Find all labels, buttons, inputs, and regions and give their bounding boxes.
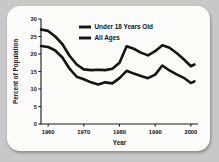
y-tick-label: 30 bbox=[31, 16, 37, 22]
y-tick-label: 25 bbox=[31, 34, 37, 40]
y-tick-label: 20 bbox=[31, 51, 37, 57]
chart-plot-area: 051015202530 19601970198019902000 Under … bbox=[7, 6, 210, 151]
x-tick-label: 1960 bbox=[42, 129, 55, 135]
legend-label: Under 18 Years Old bbox=[95, 23, 154, 30]
x-tick-label: 1980 bbox=[113, 129, 126, 135]
y-axis-title: Percent of Population bbox=[12, 39, 20, 104]
y-tick-label: 15 bbox=[31, 69, 37, 75]
x-tick-label: 2000 bbox=[184, 129, 197, 135]
y-tick-label: 10 bbox=[31, 86, 37, 92]
x-axis-title: Year bbox=[113, 139, 127, 146]
y-tick-label: 0 bbox=[34, 121, 37, 127]
legend-label: All Ages bbox=[95, 34, 121, 42]
chart-legend: Under 18 Years OldAll Ages bbox=[79, 23, 153, 42]
y-tick-label: 5 bbox=[34, 104, 37, 110]
chart-screenshot: 051015202530 19601970198019902000 Under … bbox=[0, 0, 219, 162]
chart-card: 051015202530 19601970198019902000 Under … bbox=[7, 6, 210, 151]
line-chart: 051015202530 19601970198019902000 Under … bbox=[7, 6, 210, 151]
y-axis-ticks: 051015202530 bbox=[31, 16, 41, 127]
x-axis-ticks: 19601970198019902000 bbox=[42, 124, 198, 135]
x-tick-label: 1970 bbox=[77, 129, 90, 135]
x-tick-label: 1990 bbox=[149, 129, 162, 135]
